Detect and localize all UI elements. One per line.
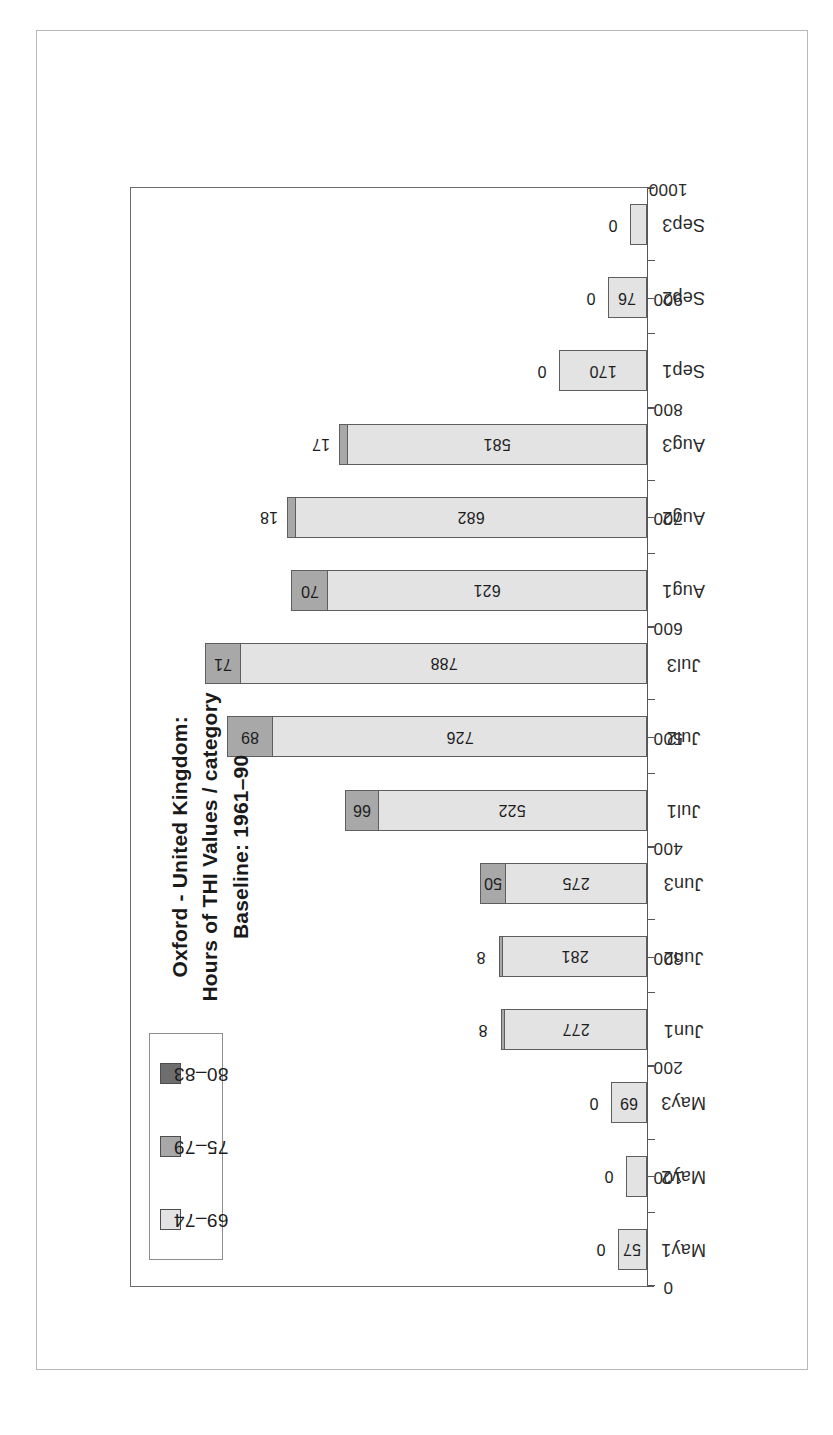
chart-title-line: Baseline: 1961–90: [226, 692, 256, 1001]
category-axis-tick: [648, 260, 655, 261]
bar-segment-value: 50: [484, 875, 502, 891]
bar-segment[interactable]: 275: [505, 863, 647, 904]
bar-segment[interactable]: [339, 424, 348, 465]
bar-segment-value: 76: [618, 290, 636, 306]
bar-outer-value-wrap: 8: [474, 1025, 492, 1034]
category-axis-tick: [648, 846, 655, 847]
bar-stack[interactable]: 281: [500, 936, 647, 977]
bar-segment[interactable]: 71: [205, 643, 242, 684]
category-label: Aug1: [662, 580, 705, 601]
bar-segment[interactable]: 522: [378, 790, 647, 831]
bar-outer-value-wrap: 0: [604, 220, 622, 229]
bar-outer-value-wrap: 8: [472, 952, 490, 961]
bar-segment-value: 277: [562, 1022, 589, 1038]
bar-segment-value: 71: [214, 656, 232, 672]
bar-segment-value: 581: [483, 436, 510, 452]
bar-segment[interactable]: 581: [347, 424, 647, 465]
bar-stack[interactable]: 69: [612, 1083, 647, 1124]
category-axis-tick: [648, 992, 655, 993]
bar-stack[interactable]: 581: [340, 424, 647, 465]
category-label-cell: Aug2: [656, 481, 710, 554]
bar-slot: 62170: [131, 554, 647, 627]
category-label: Aug3: [662, 434, 705, 455]
bar-stack[interactable]: 62170: [292, 570, 647, 611]
bar-slot: 78871: [131, 627, 647, 700]
bar-stack[interactable]: 72689: [228, 716, 647, 757]
bar-outer-value-text: 18: [260, 508, 278, 526]
category-label: Sep1: [662, 360, 705, 381]
category-label: Sep2: [662, 287, 705, 308]
bar-segment[interactable]: 281: [502, 936, 647, 977]
category-axis-tick: [648, 480, 655, 481]
category-label: May3: [661, 1092, 706, 1113]
bar-segment[interactable]: [499, 936, 503, 977]
bar-segment-value: 275: [562, 875, 589, 891]
bar-segment[interactable]: [630, 204, 647, 245]
bar-segment[interactable]: 788: [240, 643, 647, 684]
bar-outer-value-text: 8: [476, 948, 485, 966]
bar-segment[interactable]: 70: [291, 570, 327, 611]
bar-segment[interactable]: 69: [611, 1083, 647, 1124]
bar-outer-value-wrap: 17: [312, 435, 330, 453]
category-axis-tick: [648, 187, 655, 188]
bar-stack[interactable]: 682: [288, 497, 647, 538]
bar-segment-value: 522: [499, 802, 526, 818]
legend-entry[interactable]: 69–74: [160, 1192, 212, 1247]
category-label: Jun3: [663, 873, 703, 894]
category-label: May1: [661, 1239, 706, 1260]
bar-segment-value: 281: [561, 949, 588, 965]
bar-segment[interactable]: 170: [559, 350, 647, 391]
category-label-cell: Jun2: [656, 920, 710, 993]
bar-stack[interactable]: 277: [502, 1009, 647, 1050]
bar-segment-value: 726: [446, 729, 473, 745]
bar-segment[interactable]: 726: [272, 716, 647, 757]
bar-stack[interactable]: 52266: [346, 790, 647, 831]
bar-slot: 0: [131, 188, 647, 261]
bar-segment[interactable]: [501, 1009, 505, 1050]
category-axis-tick: [648, 1285, 655, 1286]
category-label: Sep3: [662, 214, 705, 235]
rotated-chart-stage: 01002003004005006007008009001000 5700690…: [122, 95, 722, 1305]
bar-segment[interactable]: 57: [618, 1229, 647, 1270]
bar-stack[interactable]: 76: [609, 277, 647, 318]
bar-outer-value-wrap: 0: [592, 1245, 610, 1254]
category-label-cell: Sep3: [656, 188, 710, 261]
legend-entry[interactable]: 75–79: [160, 1119, 212, 1174]
category-label: Jul3: [666, 653, 700, 674]
bar-stack[interactable]: 78871: [206, 643, 647, 684]
category-axis-tick: [648, 553, 655, 554]
bar-outer-value-text: 0: [596, 1240, 605, 1258]
bar-segment[interactable]: [287, 497, 296, 538]
bar-segment[interactable]: 621: [327, 570, 647, 611]
bar-outer-value-wrap: 18: [260, 508, 278, 526]
bar-segment[interactable]: 50: [480, 863, 506, 904]
bar-stack[interactable]: 57: [619, 1229, 647, 1270]
bar-segment-value: 70: [300, 583, 318, 599]
legend-label: 80–83: [174, 1063, 229, 1085]
bar-slot: 1700: [131, 334, 647, 407]
category-axis-tick: [648, 407, 655, 408]
bar-outer-value-text: 0: [538, 362, 547, 380]
bar-segment[interactable]: 76: [608, 277, 647, 318]
bar-stack[interactable]: [631, 204, 647, 245]
category-label-cell: May3: [656, 1066, 710, 1139]
bar-stack[interactable]: 170: [560, 350, 647, 391]
bar-segment-value: 621: [473, 583, 500, 599]
bar-segment[interactable]: 682: [295, 497, 647, 538]
bar-segment-value: 170: [589, 363, 616, 379]
legend-label: 75–79: [174, 1136, 229, 1158]
category-label: Jun2: [663, 946, 703, 967]
bar-stack[interactable]: 27550: [481, 863, 647, 904]
bar-outer-value-wrap: 0: [585, 1099, 603, 1108]
bar-stack[interactable]: [627, 1156, 647, 1197]
category-label: Jun1: [663, 1019, 703, 1040]
bar-outer-value-text: 8: [479, 1021, 488, 1039]
bar-slot: 68218: [131, 481, 647, 554]
bar-outer-value-text: 17: [313, 435, 331, 453]
bar-segment[interactable]: 277: [504, 1009, 647, 1050]
category-axis-tick: [648, 1065, 655, 1066]
bar-segment[interactable]: [626, 1156, 647, 1197]
category-label-cell: Jul2: [656, 700, 710, 773]
legend-entry[interactable]: 80–83: [160, 1046, 212, 1101]
bar-segment[interactable]: 66: [345, 790, 379, 831]
